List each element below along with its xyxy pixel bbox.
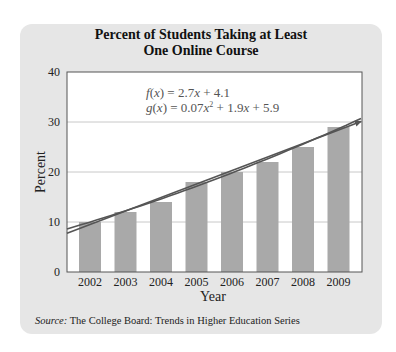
y-axis-label: Percent <box>33 151 48 193</box>
bar-2007 <box>257 162 279 272</box>
source-note: Source: The College Board: Trends in Hig… <box>35 315 300 326</box>
x-tick-label: 2008 <box>291 275 315 289</box>
y-tick-label: 40 <box>48 65 60 79</box>
x-tick-label: 2009 <box>327 275 351 289</box>
x-axis-label: Year <box>200 289 226 304</box>
bar-2004 <box>150 202 172 272</box>
bar-2002 <box>79 222 101 272</box>
x-tick-label: 2004 <box>149 275 173 289</box>
x-tick-label: 2007 <box>256 275 280 289</box>
y-tick-label: 30 <box>48 115 60 129</box>
f-equation: f(x) = 2.7x + 4.1 <box>146 85 230 100</box>
source-label: Source: <box>35 315 67 326</box>
y-tick-label: 0 <box>54 265 60 279</box>
g-equation: g(x) = 0.07x2 + 1.9x + 5.9 <box>146 100 279 115</box>
bar-2006 <box>221 172 243 272</box>
bar-2003 <box>115 212 137 272</box>
y-tick-label: 10 <box>48 215 60 229</box>
y-tick-labels: 010203040 <box>48 65 60 279</box>
bar-2009 <box>328 127 350 272</box>
x-tick-label: 2005 <box>185 275 209 289</box>
bar-2005 <box>186 182 208 272</box>
x-tick-label: 2002 <box>78 275 102 289</box>
source-text: The College Board: Trends in Higher Educ… <box>67 315 300 326</box>
x-tick-label: 2006 <box>220 275 244 289</box>
x-tick-labels: 20022003200420052006200720082009 <box>78 275 351 289</box>
chart-svg: 010203040 200220032004200520062007200820… <box>0 0 396 352</box>
x-tick-label: 2003 <box>114 275 138 289</box>
bar-2008 <box>292 147 314 272</box>
y-tick-label: 20 <box>48 165 60 179</box>
